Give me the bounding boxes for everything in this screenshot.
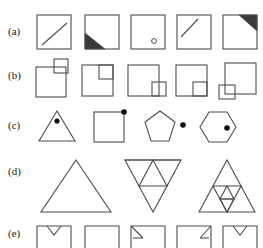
- square-with-small-circle: [130, 14, 166, 50]
- square-small-outside-top-right: [34, 56, 74, 100]
- row-label-e: (e): [8, 228, 20, 239]
- triangle-level-0: [38, 158, 114, 214]
- figure-row-e: (e): [0, 222, 263, 246]
- figure-row-c: (c): [0, 108, 263, 146]
- square-with-corner-dot: [90, 109, 132, 145]
- square-small-straddle-bottom-left: [218, 56, 262, 104]
- triangle-level-2: [196, 158, 258, 214]
- figure-row-a: (a): [0, 12, 263, 52]
- square-with-diagonal-upper-left: [176, 14, 212, 50]
- triangle-level-1: [122, 158, 184, 214]
- square-with-diagonal-lower-right: [36, 14, 72, 50]
- square-small-inside-bottom-right: [174, 56, 214, 100]
- square-with-filled-lower-left-triangle: [84, 14, 120, 50]
- row-label-c: (c): [8, 120, 20, 131]
- triangle-with-inner-dot: [36, 108, 78, 144]
- square-with-top-v-notch-2: [222, 224, 258, 248]
- square-with-right-corner-arrow: [176, 224, 212, 248]
- square-with-filled-upper-right-triangle: [222, 14, 258, 50]
- figure-row-b: (b): [0, 56, 263, 100]
- square-small-straddle-right-bottom: [126, 56, 170, 100]
- pentagon-with-outside-dot: [142, 109, 190, 145]
- square-with-top-v-notch: [36, 224, 72, 248]
- figure-row-d: (d): [0, 156, 263, 216]
- row-label-d: (d): [8, 166, 21, 177]
- square-small-inside-top-right: [80, 56, 120, 100]
- hexagon-with-inner-dot: [196, 109, 244, 145]
- row-label-b: (b): [8, 70, 21, 81]
- square-plain: [84, 224, 120, 248]
- row-label-a: (a): [8, 26, 20, 37]
- square-with-left-corner-arrow: [130, 224, 166, 248]
